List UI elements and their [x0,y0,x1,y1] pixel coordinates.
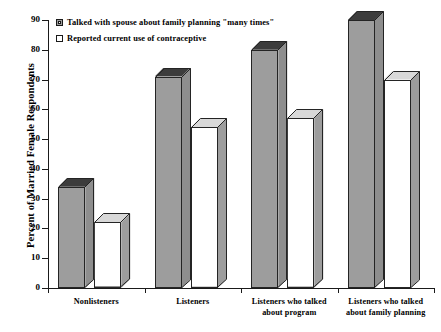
legend-swatch-icon-series-b [56,35,63,42]
x-axis-category-label: Nonlisteners [48,296,145,307]
y-axis-tick-label: 30 [14,194,40,203]
y-axis-tick-label-wrap: 0 [10,283,40,293]
y-axis-tick [42,50,48,51]
x-axis-tick [241,288,242,293]
y-axis-tick-label-wrap: 90 [10,15,40,25]
chart-legend: Talked with spouse about family planning… [56,14,274,46]
y-axis-tick-label-wrap: 30 [10,194,40,204]
x-axis-category-label-line: about family planning [338,307,435,318]
bar-outline [94,213,132,290]
y-axis-tick-label-wrap: 10 [10,253,40,263]
y-axis-tick-label-wrap: 20 [10,223,40,233]
y-axis-tick [42,109,48,110]
y-axis-line [48,20,49,289]
legend-swatch-icon-series-a [56,19,63,26]
bar [155,68,191,288]
x-axis-category-label: Listeners who talkedabout program [241,296,338,318]
bar [191,118,227,288]
x-axis-tick [434,288,435,293]
legend-label-series-b: Reported current use of contraceptive [67,34,206,43]
y-axis-tick-label: 20 [14,223,40,232]
x-axis-category-label-line: Nonlisteners [48,296,145,307]
bar-outline [287,109,325,290]
bar-outline [191,118,229,290]
bar-chart: Percent of Married Female Respondents 01… [0,0,441,332]
y-axis-tick-label: 80 [14,45,40,54]
x-axis-tick [145,288,146,293]
y-axis-tick-label-wrap: 80 [10,45,40,55]
x-axis-category-label-line: Listeners [145,296,242,307]
y-axis-tick [42,20,48,21]
x-axis-tick [338,288,339,293]
legend-item-series-b: Reported current use of contraceptive [56,30,274,46]
x-axis-category-label: Listeners who talkedabout family plannin… [338,296,435,318]
bar [251,41,287,288]
y-axis-tick-label-wrap: 70 [10,75,40,85]
y-axis-tick-label: 70 [14,75,40,84]
bar-outline [155,68,193,290]
bar-outline [384,71,422,290]
y-axis-tick [42,258,48,259]
x-axis-category-label-line: about program [241,307,338,318]
x-axis-category-label: Listeners [145,296,242,307]
y-axis-tick [42,80,48,81]
bar-outline [348,11,386,290]
y-axis-tick-label-wrap: 50 [10,134,40,144]
legend-label-series-a: Talked with spouse about family planning… [67,18,274,27]
bar [94,213,130,288]
y-axis-tick [42,169,48,170]
y-axis-tick [42,199,48,200]
bar [348,11,384,288]
y-axis-tick-label-wrap: 60 [10,104,40,114]
y-axis-tick [42,228,48,229]
x-axis-category-label-line: Listeners who talked [338,296,435,307]
y-axis-tick-label-wrap: 40 [10,164,40,174]
bar [287,109,323,288]
bar [58,178,94,288]
bar [384,71,420,288]
bar-outline [251,41,289,290]
x-axis-category-label-line: Listeners who talked [241,296,338,307]
y-axis-tick [42,139,48,140]
y-axis-tick-label: 90 [14,15,40,24]
legend-item-series-a: Talked with spouse about family planning… [56,14,274,30]
y-axis-tick-label: 10 [14,253,40,262]
y-axis-tick-label: 40 [14,164,40,173]
x-axis-tick [48,288,49,293]
y-axis-title: Percent of Married Female Respondents [25,31,36,281]
y-axis-tick-label: 50 [14,134,40,143]
y-axis-tick-label: 60 [14,104,40,113]
y-axis-tick-label: 0 [14,283,40,292]
bar-outline [58,178,96,290]
